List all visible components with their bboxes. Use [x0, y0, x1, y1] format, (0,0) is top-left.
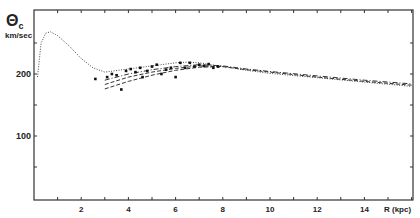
- plot-frame: [34, 10, 413, 200]
- data-point: [198, 63, 201, 66]
- curve-model-dashed-1: [105, 66, 412, 85]
- data-point: [207, 63, 210, 66]
- data-point: [165, 68, 168, 71]
- data-point: [179, 62, 182, 65]
- data-point: [151, 65, 154, 68]
- data-point: [139, 67, 142, 70]
- data-point: [120, 88, 123, 91]
- data-point: [106, 76, 109, 79]
- data-point: [184, 67, 187, 70]
- data-point: [174, 76, 177, 79]
- data-point: [141, 76, 144, 79]
- data-point: [129, 68, 132, 71]
- x-tick-label: 2: [79, 205, 84, 214]
- curve-model-dotted: [38, 32, 412, 87]
- data-point: [160, 73, 163, 76]
- y-tick-label: 200: [16, 69, 31, 79]
- data-point: [170, 67, 173, 70]
- data-point: [188, 62, 191, 65]
- data-point: [146, 70, 149, 73]
- x-tick-label: 10: [266, 205, 275, 214]
- rotation-curve-chart: 2468101214100200 Θc km/sec R (kpc): [0, 0, 420, 218]
- data-point: [94, 78, 97, 81]
- data-point: [125, 70, 128, 73]
- data-point: [155, 63, 158, 66]
- axis-ticks: 2468101214100200: [16, 10, 413, 214]
- x-axis-label: R (kpc): [384, 205, 411, 214]
- y-tick-label: 100: [16, 131, 31, 141]
- x-tick-label: 4: [126, 205, 131, 214]
- data-point: [193, 65, 196, 68]
- data-point: [217, 65, 220, 68]
- x-tick-label: 12: [313, 205, 322, 214]
- data-point: [115, 74, 118, 77]
- model-curves: [38, 32, 412, 89]
- x-tick-label: 6: [173, 205, 178, 214]
- data-point: [134, 71, 137, 74]
- data-point: [212, 67, 215, 70]
- data-point: [203, 65, 206, 68]
- y-axis-unit: km/sec: [5, 31, 33, 40]
- y-axis-symbol: Θc: [6, 12, 23, 31]
- data-point: [111, 73, 114, 76]
- x-tick-label: 8: [221, 205, 226, 214]
- x-tick-label: 14: [360, 205, 369, 214]
